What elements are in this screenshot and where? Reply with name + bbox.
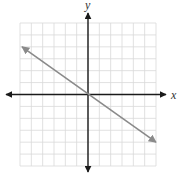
y-axis-label: y bbox=[84, 0, 91, 12]
x-axis-label: x bbox=[170, 88, 177, 102]
coordinate-plane: x y bbox=[0, 0, 181, 178]
